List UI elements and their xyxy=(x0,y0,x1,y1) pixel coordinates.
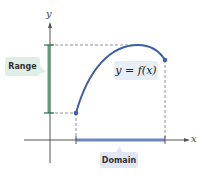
guide-lines xyxy=(50,45,165,140)
end-point xyxy=(163,58,168,63)
start-point xyxy=(74,111,79,116)
x-axis-arrow-icon xyxy=(184,138,190,142)
y-axis-arrow-icon xyxy=(48,22,52,28)
y-axis-label: y xyxy=(46,8,52,19)
domain-label: Domain xyxy=(100,152,138,168)
function-label: y = f(x) xyxy=(114,61,158,80)
x-axis-label: x xyxy=(191,133,197,144)
diagram-canvas xyxy=(0,0,198,175)
range-label: Range xyxy=(5,57,40,76)
